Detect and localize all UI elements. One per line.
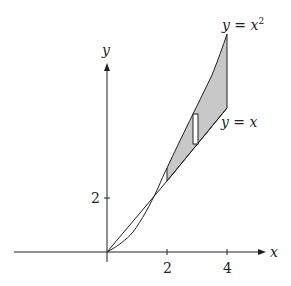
region-between-curves-diagram: x y 2 4 2 y = x2 y = x [0,0,291,286]
x-axis-arrow-icon [258,249,266,255]
sample-rectangle [193,114,198,144]
y-axis-arrow-icon [104,63,110,71]
y-axis-label: y [101,42,111,58]
x-tick-label-2: 2 [163,260,172,276]
x-tick-label-4: 4 [223,260,232,276]
shaded-region [167,34,227,181]
x-axis-label: x [270,244,278,260]
y-tick-label-2: 2 [91,190,100,206]
line-label: y = x [220,114,258,130]
diagram-svg: x y 2 4 2 y = x2 y = x [0,0,291,286]
parabola-label: y = x2 [221,16,264,33]
parabola-curve [107,168,167,252]
